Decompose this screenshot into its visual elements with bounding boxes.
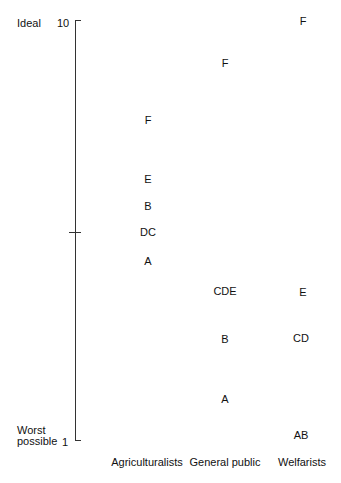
y-axis-tick-bottom bbox=[75, 440, 81, 441]
y-axis-bottom-annotation-line2: possible bbox=[17, 435, 57, 447]
point-welf-CD: CD bbox=[293, 332, 309, 344]
y-axis-top-annotation: Ideal bbox=[17, 17, 41, 29]
y-axis-line bbox=[75, 20, 76, 441]
point-welf-AB: AB bbox=[294, 429, 309, 441]
point-welf-E: E bbox=[299, 286, 306, 298]
x-category-welfarists: Welfarists bbox=[278, 456, 326, 468]
point-agri-A: A bbox=[144, 255, 151, 267]
point-agri-E: E bbox=[144, 173, 151, 185]
point-public-CDE: CDE bbox=[213, 285, 236, 297]
point-public-B: B bbox=[221, 333, 228, 345]
point-agri-F: F bbox=[145, 114, 152, 126]
point-agri-B: B bbox=[144, 200, 151, 212]
x-category-general-public: General public bbox=[190, 456, 261, 468]
point-agri-DC: DC bbox=[140, 226, 156, 238]
y-axis-tick-mid bbox=[69, 232, 81, 233]
point-public-F: F bbox=[222, 57, 229, 69]
y-axis-tick-top bbox=[75, 20, 81, 21]
y-axis-top-value: 10 bbox=[57, 17, 69, 29]
point-welf-F: F bbox=[300, 15, 307, 27]
point-public-A: A bbox=[221, 393, 228, 405]
x-category-agriculturalists: Agriculturalists bbox=[111, 456, 183, 468]
y-axis-bottom-value: 1 bbox=[62, 436, 68, 448]
